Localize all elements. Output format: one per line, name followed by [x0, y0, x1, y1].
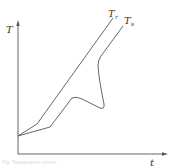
y-axis-label: T [6, 24, 14, 35]
diagram-canvas: T t T r T s [0, 0, 172, 168]
ts-label-subscript: s [131, 20, 134, 27]
y-axis-arrow-icon [16, 20, 19, 26]
x-axis-label: t [150, 157, 155, 168]
x-axis-arrow-icon [162, 152, 168, 155]
series-ts-line [18, 26, 123, 136]
figure-caption: Fig. Temperature curves [2, 159, 56, 165]
tr-label-subscript: r [115, 13, 119, 20]
